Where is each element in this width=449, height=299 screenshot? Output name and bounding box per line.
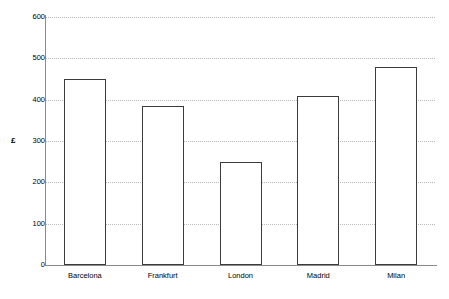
bar [64,79,106,265]
y-axis-tick-label: 300 [1,137,45,145]
x-axis-tick-label: Milan [346,271,446,280]
y-axis-label: £ [11,137,15,145]
y-axis-line [45,15,46,266]
bar-chart: 0100200300400500600 £ BarcelonaFrankfurt… [0,0,449,299]
plot-area [46,17,435,265]
y-axis-tick-label: 400 [1,96,45,104]
bar [220,162,262,265]
gridline [46,17,435,18]
bar [375,67,417,265]
gridline [46,58,435,59]
y-axis-ticks: 0100200300400500600 [0,0,45,299]
y-axis-tick-label: 0 [1,261,45,269]
bar [297,96,339,265]
y-axis-tick-label: 200 [1,178,45,186]
bar [142,106,184,265]
y-axis-tick-label: 500 [1,54,45,62]
y-axis-tick-label: 100 [1,220,45,228]
x-axis-line [45,265,437,266]
y-axis-tick-label: 600 [1,13,45,21]
